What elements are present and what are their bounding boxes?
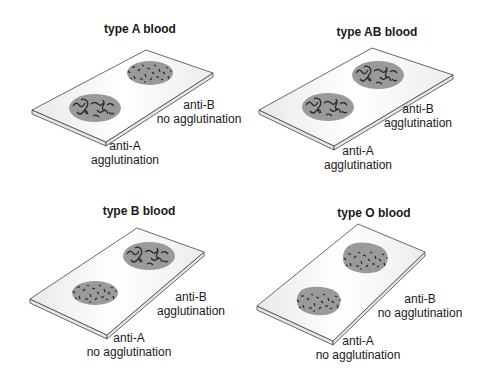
reagent-name: anti-A [316,334,401,348]
reagent-name: anti-B [384,102,452,116]
anti-b-label-type-ab: anti-B agglutination [384,102,452,130]
reagent-result: no agglutination [157,112,242,126]
reagent-result: agglutination [384,116,452,130]
anti-a-label-type-o: anti-A no agglutination [316,334,401,362]
drop-anti-a-type-ab [302,93,354,121]
anti-a-label-type-b: anti-A no agglutination [87,331,172,359]
anti-b-label-type-o: anti-B no agglutination [378,292,463,320]
blood-typing-diagram [0,0,484,378]
drop-anti-b-type-ab [352,61,404,89]
reagent-name: anti-B [157,290,225,304]
panel-title-type-ab: type AB blood [337,25,418,39]
drop-anti-a-type-a [69,94,121,122]
slide-type-o [257,224,425,345]
reagent-result: agglutination [157,304,225,318]
anti-b-label-type-b: anti-B agglutination [157,290,225,318]
reagent-name: anti-B [157,98,242,112]
reagent-name: anti-B [378,292,463,306]
reagent-result: agglutination [91,153,159,167]
panel-title-type-a: type A blood [104,22,176,36]
anti-b-label-type-a: anti-B no agglutination [157,98,242,126]
reagent-name: anti-A [87,331,172,345]
panel-title-type-b: type B blood [103,204,176,218]
anti-a-label-type-a: anti-A agglutination [91,139,159,167]
panel-title-type-o: type O blood [337,206,410,220]
drop-anti-b-type-b [123,242,175,270]
reagent-result: no agglutination [87,345,172,359]
reagent-name: anti-A [91,139,159,153]
drop-anti-b-type-a [127,61,173,85]
reagent-result: no agglutination [378,306,463,320]
anti-a-label-type-ab: anti-A agglutination [324,144,392,172]
slide-type-b [30,228,204,339]
reagent-result: no agglutination [316,348,401,362]
drop-anti-a-type-b [72,281,118,305]
drop-anti-b-type-o [343,243,388,274]
reagent-name: anti-A [324,144,392,158]
drop-anti-a-type-o [297,287,341,316]
slide-type-ab [259,48,453,150]
reagent-result: agglutination [324,158,392,172]
